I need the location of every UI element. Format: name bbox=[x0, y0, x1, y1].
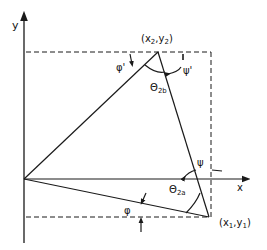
psi-prime-arc bbox=[168, 67, 181, 74]
theta-2a-arc bbox=[186, 193, 200, 213]
psi-label: ψ bbox=[197, 158, 204, 168]
phi-prime-arc bbox=[130, 54, 132, 64]
theta-2a-label: Θ2a bbox=[169, 185, 186, 197]
phi-label: φ bbox=[124, 206, 131, 216]
point-p1-label: (x1,y1) bbox=[219, 218, 251, 230]
phi-prime-label: φ' bbox=[116, 63, 125, 73]
point-p2-label: (x2,y2) bbox=[141, 34, 173, 46]
diagram-lines bbox=[0, 0, 267, 250]
y-axis-label: y bbox=[12, 20, 19, 31]
x-axis-label: x bbox=[237, 183, 243, 193]
psi-arc bbox=[184, 170, 196, 178]
triangle-angle-diagram: y x (x2,y2) (x1,y1) φ' ψ' Θ2b ψ Θ2a φ bbox=[0, 0, 267, 250]
side-origin-p2 bbox=[24, 52, 158, 179]
psi-right-arc bbox=[212, 170, 222, 171]
theta-2b-label: Θ2b bbox=[150, 83, 167, 95]
psi-prime-label: ψ' bbox=[183, 66, 192, 76]
phi-arrow-upper bbox=[142, 193, 146, 202]
